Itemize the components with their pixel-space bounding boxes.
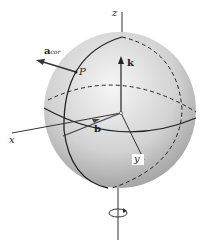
a-cor-arrowhead — [36, 59, 45, 65]
b-vector-label: b — [94, 124, 101, 134]
x-axis-label: x — [9, 135, 15, 145]
y-axis-label: y — [134, 154, 140, 164]
sphere — [44, 32, 196, 188]
point-p-label: P — [79, 67, 86, 77]
a-cor-label: acor — [44, 46, 60, 56]
z-axis-label: z — [112, 8, 117, 18]
k-vector-label: k — [127, 58, 134, 68]
a-cor-subscript: cor — [50, 48, 60, 55]
point-p-dot — [75, 71, 78, 74]
origin-dot — [120, 112, 123, 115]
rotating-sphere-diagram — [0, 0, 207, 243]
